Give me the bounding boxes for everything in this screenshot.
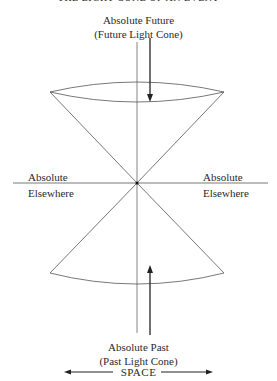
elsewhere-left-line1: Absolute — [28, 171, 68, 184]
future-cone-right-edge — [137, 92, 224, 183]
past-arrow-head — [147, 265, 153, 273]
absolute-past-label: Absolute Past — [0, 341, 277, 354]
space-axis-label: SPACE — [0, 366, 277, 379]
event-point — [136, 182, 139, 185]
future-arrow-head — [147, 94, 153, 102]
elsewhere-right-line2: Elsewhere — [203, 187, 249, 200]
elsewhere-left-line2: Elsewhere — [28, 187, 74, 200]
future-cone-left-edge — [50, 92, 137, 183]
elsewhere-right-line1: Absolute — [203, 171, 243, 184]
light-cone-diagram: THE LIGHT CONE OF AN EVENT Absolute Futu… — [0, 0, 277, 381]
